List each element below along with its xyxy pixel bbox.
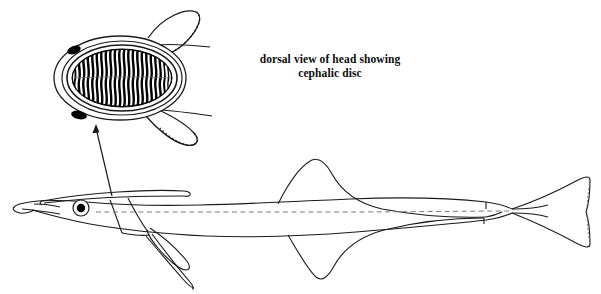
caption-line-1: dorsal view of head showing <box>232 52 428 66</box>
cephalic-disc-inset <box>54 11 212 145</box>
fish-eye <box>73 200 89 216</box>
caption-line-2: cephalic disc <box>232 66 428 80</box>
fish-dorsal-fin-base-rear <box>486 212 502 217</box>
fish-ventral-contour <box>32 210 512 237</box>
fish-lateral-view <box>13 159 590 289</box>
fish-snout <box>13 202 34 213</box>
fish-dorsal-fin <box>278 159 486 217</box>
caption: dorsal view of head showing cephalic dis… <box>232 52 428 80</box>
leader-arrow <box>92 124 112 196</box>
fish-lower-jaw <box>22 209 60 214</box>
fish-opercle-rear <box>128 198 148 232</box>
fish-caudal-upper-lobe <box>512 177 590 212</box>
fish-peduncle-notch <box>484 202 486 224</box>
fish-lateral-line <box>96 211 510 212</box>
fish-opercle-base <box>122 233 150 235</box>
line-drawing <box>0 0 601 294</box>
fish-eye-pupil <box>77 204 85 212</box>
fish-anal-fin <box>288 218 484 279</box>
fish-caudal-lower-lobe <box>512 212 590 247</box>
fish-dorsal-contour <box>30 198 512 209</box>
fish-disc-posterior-tip <box>184 191 190 196</box>
fish-upper-lip <box>34 204 60 207</box>
figure-canvas: dorsal view of head showing cephalic dis… <box>0 0 601 294</box>
